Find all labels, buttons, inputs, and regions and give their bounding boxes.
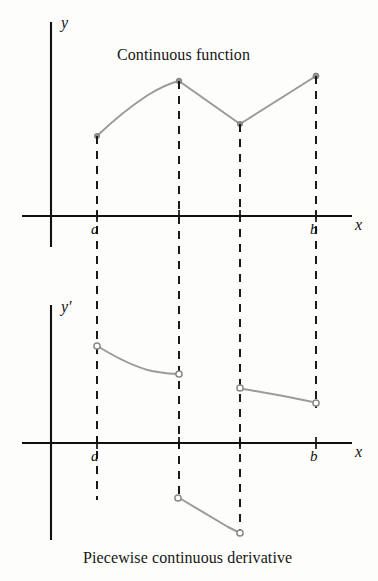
top-tick-label-a: a bbox=[91, 221, 99, 238]
open-endpoint-c2-left bbox=[237, 530, 243, 536]
figure-canvas bbox=[0, 0, 378, 581]
open-endpoint-c1-left bbox=[176, 371, 182, 377]
derivative-curve-segments bbox=[99, 347, 313, 532]
top-tick-label-b: b bbox=[310, 221, 318, 238]
curve-segment-3 bbox=[240, 76, 316, 124]
open-endpoint-c2-right bbox=[237, 385, 243, 391]
curve-segment-2 bbox=[179, 81, 240, 124]
open-endpoint-b-left bbox=[313, 400, 319, 406]
continuous-function-nodes bbox=[94, 73, 319, 139]
derivative-segment-1 bbox=[99, 347, 178, 374]
derivative-endpoint-markers bbox=[94, 343, 319, 536]
open-endpoint-a-right bbox=[94, 343, 100, 349]
open-endpoint-c1-right bbox=[175, 495, 181, 501]
curve-segment-1 bbox=[97, 81, 179, 136]
derivative-segment-3 bbox=[243, 389, 313, 402]
caption-continuous-function: Continuous function bbox=[117, 46, 250, 64]
top-x-axis-label: x bbox=[355, 216, 362, 234]
bottom-panel-axes bbox=[22, 305, 352, 540]
bottom-tick-label-a: a bbox=[91, 448, 99, 465]
dashed-connector-lines bbox=[97, 76, 316, 533]
derivative-segment-2 bbox=[181, 499, 238, 532]
figure-container: Continuous function Piecewise continuous… bbox=[0, 0, 378, 581]
caption-piecewise-continuous-derivative: Piecewise continuous derivative bbox=[83, 549, 292, 567]
continuous-function-curve bbox=[97, 76, 316, 136]
bottom-tick-label-b: b bbox=[310, 448, 318, 465]
bottom-x-axis-label: x bbox=[355, 443, 362, 461]
top-y-axis-label: y bbox=[61, 14, 68, 32]
bottom-y-axis-label: y′ bbox=[61, 298, 72, 316]
